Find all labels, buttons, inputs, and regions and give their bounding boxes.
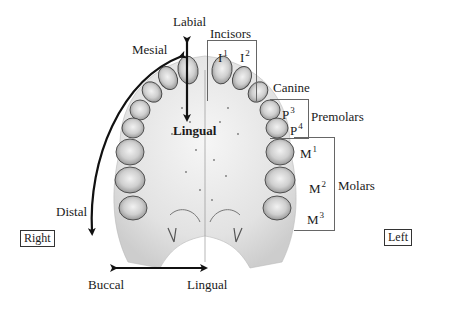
palate [114,56,296,268]
tooth-label-m2: M2 [309,178,326,195]
tooth-label-i2: I2 [240,47,250,64]
tooth-label-p4: P4 [290,120,303,137]
label-premolars: Premolars [311,111,364,123]
tooth-label-m1: M1 [300,143,317,160]
label-left: Left [384,229,412,246]
label-lingual-bottom: Lingual [187,279,227,291]
label-distal: Distal [56,206,87,218]
tooth-label-i1: I1 [218,47,228,64]
label-buccal: Buccal [88,279,124,291]
label-incisors: Incisors [210,28,251,40]
label-mesial: Mesial [132,44,167,56]
tooth-label-p3: P3 [282,104,295,121]
label-labial: Labial [173,16,206,28]
label-canine: Canine [273,82,310,94]
tooth-label-m3: M3 [307,209,324,226]
label-right: Right [20,230,55,247]
label-molars: Molars [338,180,375,192]
label-lingual-center: Lingual [173,125,216,137]
